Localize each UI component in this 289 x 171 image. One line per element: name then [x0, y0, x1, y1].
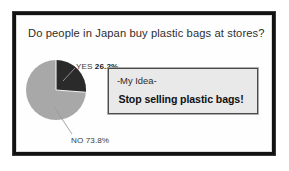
- slide-frame: Do people in Japan buy plastic bags at s…: [13, 12, 275, 155]
- page-title: Do people in Japan buy plastic bags at s…: [28, 27, 266, 40]
- pie-label-yes-prefix: YES: [76, 62, 95, 71]
- pie-label-no-value: 73.8%: [86, 136, 109, 145]
- pie-label-no-prefix: NO: [71, 136, 86, 145]
- pie-label-no: NO 73.8%: [71, 136, 109, 145]
- idea-box: -My Idea- Stop selling plastic bags!: [108, 68, 258, 114]
- slide-root: Do people in Japan buy plastic bags at s…: [0, 0, 289, 171]
- idea-box-heading: -My Idea-: [117, 75, 157, 86]
- idea-box-statement: Stop selling plastic bags!: [109, 93, 253, 105]
